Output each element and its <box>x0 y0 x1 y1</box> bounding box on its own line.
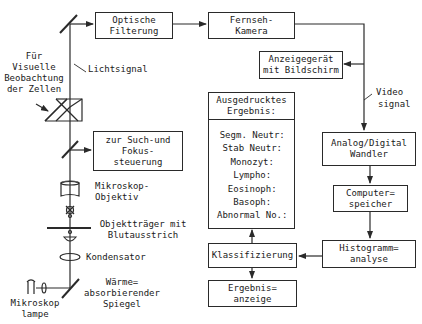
heat-mirror-label: Wärme= absorbierender Spiegel <box>82 277 162 310</box>
classify-box: Klassifizierung <box>208 243 297 268</box>
histogram-box: Histogramm= analyse <box>322 240 416 268</box>
prism-icon <box>45 99 82 121</box>
optical-filter-box: Optische Filterung <box>95 12 173 39</box>
focus-label-3: steuerung <box>114 157 163 168</box>
adc-label-2: Wandler <box>350 149 388 160</box>
slide-line-2: Blutausstrich <box>98 230 188 241</box>
visual-observation-label: Für Visuelle Beobachtung der Zellen <box>4 51 64 95</box>
adc-box: Analog/Digital Wandler <box>322 132 416 166</box>
tv-camera-box: Fernseh- Kamera <box>208 12 295 39</box>
visual-line-1: Für <box>4 51 64 62</box>
visual-line-3: Beobachtung <box>4 73 64 84</box>
printed-result-list: Segm. Neutr: Stab Neutr: Monozyt: Lympho… <box>217 129 287 223</box>
video-line-2: signal <box>374 98 411 110</box>
result-item: Eosinoph: <box>217 183 287 196</box>
adc-label-1: Analog/Digital <box>331 138 407 149</box>
objective-line-2: Objektiv <box>95 192 149 203</box>
focus-label-2: Fokus- <box>122 146 155 157</box>
result-item: Basoph: <box>217 196 287 209</box>
memory-box: Computer= speicher <box>333 185 408 212</box>
optical-filter-label-1: Optische <box>112 15 155 26</box>
slide-label: Objektträger mit Blutausstrich <box>98 219 188 241</box>
printed-result-title-2: Ergebnis: <box>227 106 276 117</box>
result-display-label-2: anzeige <box>234 294 272 305</box>
visual-line-4: der Zellen <box>4 84 64 95</box>
objective-label: Mikroskop- Objektiv <box>95 181 149 203</box>
heat-line-2: absorbierender <box>82 288 162 299</box>
lamp-label: Mikroskop lampe <box>10 298 60 320</box>
objective-line-1: Mikroskop- <box>95 181 149 192</box>
heat-line-1: Wärme= <box>82 277 162 288</box>
result-display-box: Ergebnis= anzeige <box>208 280 297 307</box>
video-signal-label: Video signal <box>374 86 411 110</box>
heat-line-3: Spiegel <box>82 299 162 310</box>
lamp-icon <box>27 280 35 294</box>
histogram-label-2: analyse <box>350 254 388 265</box>
display-box: Anzeigegerät mit Bildschirm <box>259 51 343 79</box>
histogram-label-1: Histogramm= <box>339 243 399 254</box>
condenser-label: Kondensator <box>86 252 146 263</box>
optical-filter-label-2: Filterung <box>110 26 159 37</box>
result-item: Abnormal No.: <box>217 209 287 222</box>
result-display-label-1: Ergebnis= <box>228 283 277 294</box>
printed-result-title-1: Ausgedrucktes <box>216 95 286 106</box>
focus-control-box: zur Such-und Fokus- steuerung <box>93 131 183 171</box>
slide-icon <box>47 206 91 241</box>
printed-result-box: Ausgedrucktes Ergebnis: Segm. Neutr: Sta… <box>208 92 295 229</box>
light-signal-label: Lichtsignal <box>88 64 148 75</box>
display-label-1: Anzeigegerät <box>268 54 333 65</box>
result-item: Stab Neutr: <box>217 142 287 155</box>
memory-label-1: Computer= <box>346 188 395 199</box>
classify-label: Klassifizierung <box>212 250 293 261</box>
focus-label-1: zur Such-und <box>105 135 170 146</box>
slide-line-1: Objektträger mit <box>98 219 188 230</box>
memory-label-2: speicher <box>349 199 392 210</box>
printed-result-header: Ausgedrucktes Ergebnis: <box>209 93 294 120</box>
tv-camera-label-1: Fernseh- <box>230 15 273 26</box>
video-line-1: Video <box>374 86 411 98</box>
tv-camera-label-2: Kamera <box>235 26 268 37</box>
result-item: Segm. Neutr: <box>217 129 287 142</box>
lamp-line-1: Mikroskop <box>10 298 60 309</box>
result-item: Monozyt: <box>217 156 287 169</box>
result-item: Lympho: <box>217 169 287 182</box>
lamp-line-2: lampe <box>10 309 60 320</box>
visual-line-2: Visuelle <box>4 62 64 73</box>
display-label-2: mit Bildschirm <box>263 65 339 76</box>
